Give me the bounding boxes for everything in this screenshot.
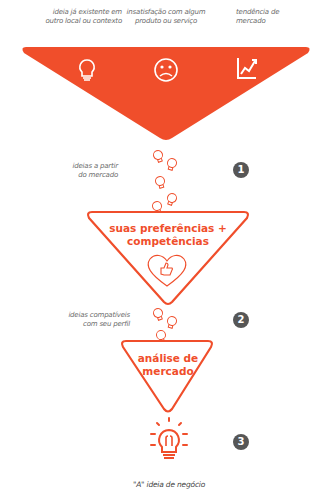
label-line: mercado <box>236 17 316 26</box>
stage-2-title: suas preferências + competências <box>100 222 236 248</box>
label-line: do mercado <box>40 171 118 180</box>
small-bulb-icon <box>166 157 178 170</box>
small-bulb-icon <box>152 307 164 321</box>
title-line: mercado <box>128 365 208 378</box>
title-line: suas preferências + <box>100 222 236 235</box>
small-bulb-icon <box>166 315 178 328</box>
small-bulb-icon <box>152 149 164 163</box>
label-line: produto ou serviço <box>116 17 216 26</box>
step-badge-2: 2 <box>233 312 249 328</box>
stage-1-side-label: ideias a partir do mercado <box>40 162 118 180</box>
title-line: competências <box>100 235 236 248</box>
idea-bulbs-cascade-2 <box>152 307 177 342</box>
source-label-dissatisfaction: insatisfação com algum produto ou serviç… <box>116 8 216 26</box>
stage-3-title: análise de mercado <box>128 352 208 378</box>
idea-bulbs-cascade-1 <box>151 149 177 214</box>
source-label-market-trend: tendência de mercado <box>236 8 316 26</box>
step-badge-3: 3 <box>233 434 249 450</box>
title-line: análise de <box>128 352 208 365</box>
result-label: "A" ideia de negócio <box>109 480 229 489</box>
label-line: outro local ou contexto <box>18 17 122 26</box>
small-bulb-icon <box>154 175 166 188</box>
label-line: com seu perfil <box>30 320 130 329</box>
label-line: ideia já existente em <box>18 8 122 17</box>
label-line: ideias compatíveis <box>30 311 130 320</box>
label-line: insatisfação com algum <box>116 8 216 17</box>
source-label-existing-idea: ideia já existente em outro local ou con… <box>18 8 122 26</box>
funnel-top-triangle <box>22 47 309 140</box>
small-bulb-icon <box>165 192 177 206</box>
label-line: ideias a partir <box>40 162 118 171</box>
step-badge-1: 1 <box>233 162 249 178</box>
label-line: tendência de <box>236 8 316 17</box>
lightbulb-idea-icon <box>151 418 187 458</box>
stage-2-side-label: ideias compatíveis com seu perfil <box>30 311 130 329</box>
